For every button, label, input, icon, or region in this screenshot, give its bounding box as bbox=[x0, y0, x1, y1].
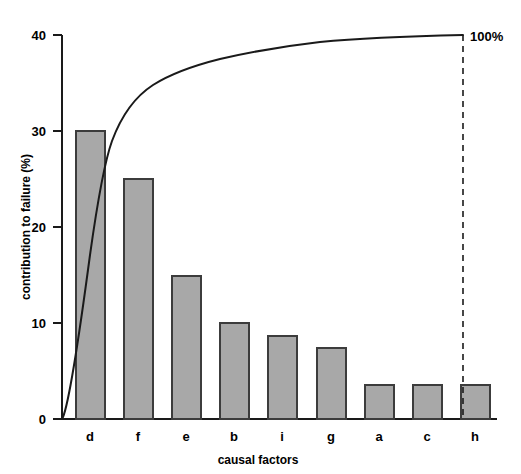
x-label-b: b bbox=[230, 429, 238, 444]
x-label-e: e bbox=[182, 429, 189, 444]
x-label-g: g bbox=[327, 429, 335, 444]
x-axis-category-labels: d f e b i g a c h bbox=[86, 429, 479, 444]
y-tick-label-10: 10 bbox=[32, 316, 46, 331]
y-tick-label-40: 40 bbox=[32, 28, 46, 43]
bar-d bbox=[76, 131, 105, 419]
bar-b bbox=[220, 323, 249, 419]
y-tick-label-0: 0 bbox=[39, 412, 46, 427]
bar-f bbox=[124, 179, 153, 419]
chart-canvas: 0 10 20 30 40 100% d f e bbox=[0, 0, 521, 474]
y-axis-title: contribution to failure (%) bbox=[19, 154, 33, 300]
x-label-c: c bbox=[423, 429, 430, 444]
bar-series bbox=[76, 131, 490, 419]
x-label-h: h bbox=[471, 429, 479, 444]
pareto-chart: 0 10 20 30 40 100% d f e bbox=[0, 0, 521, 474]
x-label-f: f bbox=[136, 429, 141, 444]
y-tick-label-30: 30 bbox=[32, 124, 46, 139]
hundred-percent-label: 100% bbox=[470, 29, 504, 44]
x-label-i: i bbox=[280, 429, 284, 444]
y-axis-tick-labels: 0 10 20 30 40 bbox=[32, 28, 46, 427]
x-label-a: a bbox=[375, 429, 383, 444]
bar-e bbox=[172, 276, 201, 419]
x-label-d: d bbox=[86, 429, 94, 444]
x-axis-title: causal factors bbox=[218, 453, 299, 467]
bar-h bbox=[461, 385, 490, 419]
bar-c bbox=[413, 385, 442, 419]
bar-a bbox=[365, 385, 394, 419]
y-tick-label-20: 20 bbox=[32, 220, 46, 235]
y-axis-ticks bbox=[53, 35, 62, 419]
bar-i bbox=[268, 336, 297, 419]
bar-g bbox=[317, 348, 346, 419]
